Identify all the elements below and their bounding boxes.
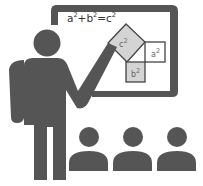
label-c-squared: c2 — [119, 38, 128, 49]
label-b-squared: b2 — [131, 68, 140, 79]
teacher-illustration — [0, 0, 203, 186]
pythagorean-formula: a2+b2=c2 — [67, 12, 116, 23]
audience-icon — [69, 127, 196, 171]
label-a-squared: a2 — [151, 48, 160, 59]
